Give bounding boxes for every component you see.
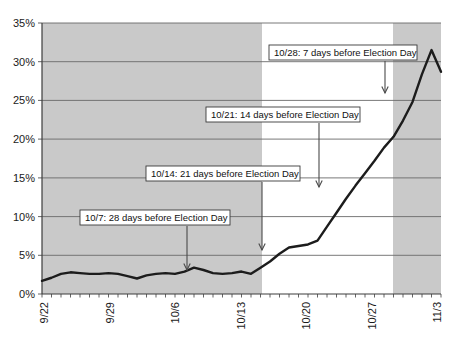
y-tick-label: 20% xyxy=(13,133,35,145)
shaded-band-left xyxy=(42,23,262,294)
x-tick-label: 9/22 xyxy=(38,302,50,323)
y-tick-label: 30% xyxy=(13,56,35,68)
annotation-label: 10/14: 21 days before Election Day xyxy=(151,168,299,179)
y-tick-label: 10% xyxy=(13,211,35,223)
y-tick-label: 0% xyxy=(19,288,35,300)
chart-container: 35% 30% 25% 20% 15% 10% 5% 0% 9/22 9/29 … xyxy=(0,0,461,346)
y-tick-label: 15% xyxy=(13,172,35,184)
line-chart: 35% 30% 25% 20% 15% 10% 5% 0% 9/22 9/29 … xyxy=(0,0,461,346)
x-tick-label: 10/13 xyxy=(235,302,247,330)
y-tick-label: 25% xyxy=(13,94,35,106)
shaded-band-right xyxy=(393,23,441,294)
x-tick-label: 10/6 xyxy=(169,302,181,323)
x-tick-label: 9/29 xyxy=(104,302,116,323)
x-tick-label: 10/27 xyxy=(366,302,378,330)
x-axis-labels: 9/22 9/29 10/6 10/13 10/20 10/27 11/3 xyxy=(38,302,443,330)
annotation-label: 10/7: 28 days before Election Day xyxy=(85,212,228,223)
y-axis-labels: 35% 30% 25% 20% 15% 10% 5% 0% xyxy=(13,17,35,300)
x-tick-label: 11/3 xyxy=(431,302,443,323)
x-tick-label: 10/20 xyxy=(300,302,312,330)
y-tick-label: 5% xyxy=(19,249,35,261)
annotation-label: 10/28: 7 days before Election Day xyxy=(274,47,417,58)
y-tick-label: 35% xyxy=(13,17,35,29)
annotation-label: 10/21: 14 days before Election Day xyxy=(211,109,359,120)
footer-caption xyxy=(0,338,461,346)
